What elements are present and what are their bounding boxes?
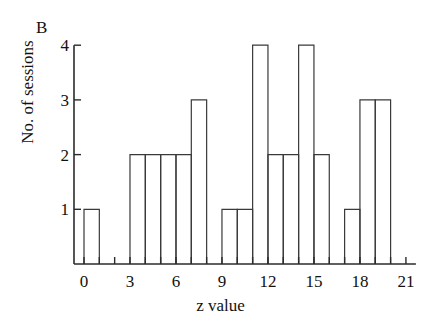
histogram-bar xyxy=(268,155,283,264)
ticks-layer xyxy=(74,45,406,264)
histogram-bar xyxy=(222,209,237,264)
histogram-bar xyxy=(191,100,206,264)
x-tick-label: 21 xyxy=(397,272,414,291)
x-tick-label: 9 xyxy=(218,272,227,291)
histogram-bar xyxy=(176,155,191,264)
x-tick-label: 0 xyxy=(80,272,89,291)
y-tick-label: 2 xyxy=(61,146,70,165)
y-tick-label: 4 xyxy=(61,36,70,55)
histogram-bar xyxy=(84,209,99,264)
histogram-bar xyxy=(130,155,145,264)
bars-layer xyxy=(84,45,391,264)
y-tick-label: 1 xyxy=(61,200,70,219)
histogram-bar xyxy=(253,45,268,264)
histogram-plot: 0369121518211234 xyxy=(0,0,441,328)
x-tick-label: 18 xyxy=(351,272,368,291)
histogram-bar xyxy=(314,155,329,264)
x-tick-label: 3 xyxy=(126,272,135,291)
histogram-bar xyxy=(161,155,176,264)
figure-panel: B No. of sessions z value 03691215182112… xyxy=(0,0,441,328)
histogram-bar xyxy=(237,209,252,264)
x-tick-label: 6 xyxy=(172,272,181,291)
x-tick-label: 15 xyxy=(305,272,322,291)
histogram-bar xyxy=(145,155,160,264)
x-tick-label: 12 xyxy=(259,272,276,291)
histogram-bar xyxy=(360,100,375,264)
histogram-bar xyxy=(345,209,360,264)
histogram-bar xyxy=(299,45,314,264)
histogram-bar xyxy=(283,155,298,264)
histogram-bar xyxy=(375,100,390,264)
y-tick-label: 3 xyxy=(61,91,70,110)
axes-layer xyxy=(74,45,416,264)
